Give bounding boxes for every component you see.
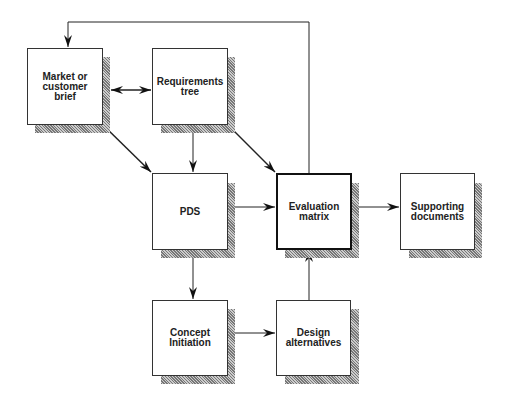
node-evaluation-matrix-label: Evaluation matrix bbox=[289, 202, 340, 222]
node-concept-initiation[interactable]: Concept Initiation bbox=[152, 300, 228, 376]
node-pds[interactable]: PDS bbox=[152, 173, 228, 250]
node-supporting-documents-label: Supporting documents bbox=[411, 202, 464, 222]
node-requirements-tree-label: Requirements tree bbox=[157, 77, 224, 97]
node-concept-initiation-label: Concept Initiation bbox=[169, 328, 211, 348]
node-evaluation-matrix[interactable]: Evaluation matrix bbox=[276, 173, 352, 250]
node-market-brief-label: Market or customer brief bbox=[42, 72, 87, 102]
node-design-alternatives-label: Design alternatives bbox=[286, 328, 342, 348]
node-supporting-documents[interactable]: Supporting documents bbox=[400, 173, 475, 250]
node-requirements-tree[interactable]: Requirements tree bbox=[152, 48, 228, 125]
node-design-alternatives[interactable]: Design alternatives bbox=[276, 300, 351, 376]
node-market-brief[interactable]: Market or customer brief bbox=[27, 48, 103, 125]
node-pds-label: PDS bbox=[180, 207, 201, 217]
